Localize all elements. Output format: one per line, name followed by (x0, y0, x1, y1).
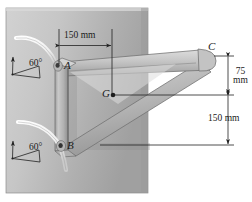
bracket-tip-c (198, 49, 216, 71)
bracket-vertical-arm (55, 62, 68, 151)
label-75-unit: mm (233, 76, 248, 85)
figure-canvas: 150 mm 60° 60° A B C G 75 mm 150 mm (0, 0, 252, 202)
label-angle-upper: 60° (29, 59, 42, 69)
center-of-gravity-dot (111, 93, 116, 98)
label-point-b: B (67, 140, 74, 151)
pin-a (54, 61, 63, 71)
label-point-a: A (64, 60, 71, 71)
label-dimension-150-horizontal: 150 mm (64, 31, 95, 41)
diagram-svg (0, 0, 252, 202)
label-dimension-150-vertical: 150 mm (208, 114, 239, 124)
label-point-c: C (208, 41, 215, 52)
label-dimension-75-vertical: 75 mm (233, 67, 248, 86)
pin-b (56, 141, 65, 152)
label-point-g: G (102, 88, 110, 99)
label-angle-lower: 60° (29, 143, 42, 153)
